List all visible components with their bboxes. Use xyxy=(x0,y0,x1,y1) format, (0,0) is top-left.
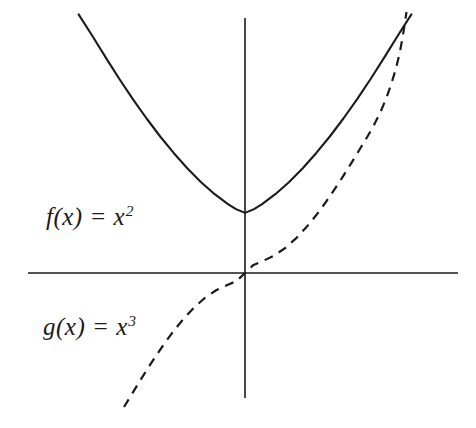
curve-label-g-name: g xyxy=(43,313,56,340)
curve-label-g-arg: (x) xyxy=(56,313,85,340)
curve-label-f-base: x xyxy=(114,203,126,230)
function-plot-figure: f(x) = x2 g(x) = x3 xyxy=(0,0,476,428)
curve-label-f-arg: (x) xyxy=(53,203,82,230)
curve-label-f-exponent: 2 xyxy=(126,202,134,219)
curve-label-g: g(x) = x3 xyxy=(43,313,136,341)
curve-label-g-exponent: 3 xyxy=(128,312,136,329)
curve-label-f-equals: = xyxy=(89,203,106,230)
curve-g-x-cubed xyxy=(124,12,407,407)
curve-label-g-equals: = xyxy=(92,313,109,340)
curve-label-g-base: x xyxy=(116,313,128,340)
curve-label-f: f(x) = x2 xyxy=(46,203,134,231)
